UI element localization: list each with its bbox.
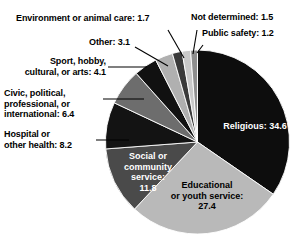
- callout-environment-or-animal-care: Environment or animal care: 1.7: [16, 13, 149, 24]
- callout-sport-hobby-cultural-or-arts: Sport, hobby, cultural, or arts: 4.1: [6, 56, 106, 77]
- callout-hospital-or-other-health: Hospital or other health: 8.2: [4, 129, 96, 150]
- callout-other: Other: 3.1: [52, 37, 130, 48]
- slice-label-social-or-community-service: Social or community service: 11.8: [118, 151, 178, 193]
- callout-public-safety: Public safety: 1.2: [202, 28, 274, 39]
- callout-not-determined: Not determined: 1.5: [191, 12, 273, 23]
- callout-civic-political-professional-international: Civic, political, professional, or inter…: [4, 88, 102, 120]
- slice-label-religious: Religious: 34.6: [212, 121, 298, 132]
- pie-chart-figure: Environment or animal care: 1.7 Other: 3…: [0, 0, 305, 245]
